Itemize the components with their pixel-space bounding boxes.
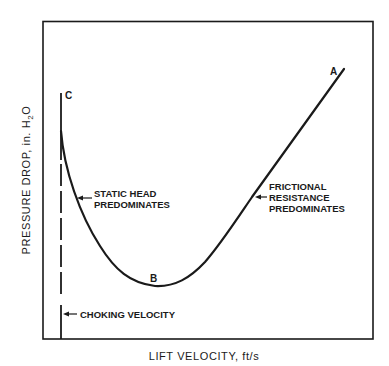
point-a-label: A [330, 66, 337, 77]
pressure-drop-curve [61, 69, 344, 286]
frictional-line2: RESISTANCE [269, 192, 330, 203]
arrowhead-icon [255, 195, 261, 200]
point-b-label: B [150, 273, 157, 284]
y-axis-label-tail: O [20, 106, 32, 115]
static-head-line2: PREDOMINATES [94, 199, 170, 210]
chart: C B A STATIC HEAD PREDOMINATES FRICTIONA… [0, 0, 389, 366]
arrowhead-icon [63, 312, 69, 317]
frictional-annotation: FRICTIONAL RESISTANCE PREDOMINATES [255, 181, 345, 214]
choking-annotation: CHOKING VELOCITY [63, 309, 176, 320]
x-axis-label: LIFT VELOCITY, ft/s [149, 350, 260, 362]
static-head-annotation: STATIC HEAD PREDOMINATES [77, 188, 170, 210]
frictional-line1: FRICTIONAL [269, 181, 327, 192]
y-axis-label-main: PRESSURE DROP, in. H [20, 120, 32, 255]
static-head-line1: STATIC HEAD [94, 188, 157, 199]
point-c-label: C [65, 90, 72, 101]
frictional-line3: PREDOMINATES [269, 203, 345, 214]
y-axis-label: PRESSURE DROP, in. H2O [20, 106, 35, 255]
choking-velocity-label: CHOKING VELOCITY [80, 309, 176, 320]
